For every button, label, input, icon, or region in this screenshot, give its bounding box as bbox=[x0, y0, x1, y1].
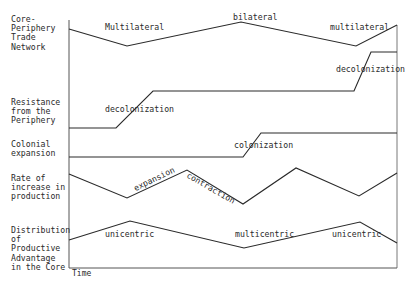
colonial-expansion-line bbox=[69, 133, 397, 157]
phase-annotation: multicentric bbox=[235, 229, 294, 239]
phase-annotation: unicentric bbox=[332, 229, 381, 239]
phase-annotation: bilateral bbox=[233, 12, 277, 22]
trade-network-row-label: Core- Periphery Trade Network bbox=[11, 15, 55, 52]
x-axis-label: Time bbox=[72, 269, 91, 278]
production-rate-row-label: Rate of increase in production bbox=[11, 174, 65, 202]
colonial-expansion-row-label: Colonial expansion bbox=[11, 140, 55, 158]
phase-annotation: decolonization bbox=[105, 104, 174, 114]
phase-annotation: colonization bbox=[234, 140, 293, 150]
phase-annotation: unicentric bbox=[105, 229, 154, 239]
resistance-row-label: Resistance from the Periphery bbox=[11, 98, 60, 126]
phase-annotation: Multilateral bbox=[105, 22, 164, 32]
productive-advantage-row-label: Distribution of Productive Advantage in … bbox=[11, 226, 70, 272]
phase-annotation: multilateral bbox=[330, 22, 389, 32]
phase-annotation: decolonization bbox=[336, 64, 405, 74]
